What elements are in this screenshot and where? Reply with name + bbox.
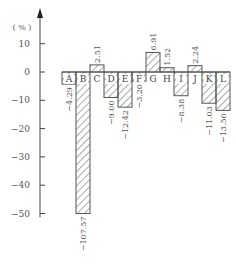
value-label: −11.03 — [205, 106, 214, 136]
category-label: K — [206, 74, 213, 84]
bar-chart: ( % )100−10−20−30−40−50 A−4.29B−107.57C2… — [0, 0, 236, 265]
value-label: −9.00 — [107, 100, 116, 125]
value-label: −107.57 — [79, 217, 88, 252]
value-label: 2.24 — [191, 46, 200, 64]
axis-arrow-icon — [37, 8, 43, 18]
y-tick-label: 10 — [19, 39, 31, 49]
bar-rect — [160, 68, 174, 72]
bar-b: B−107.57 — [76, 72, 90, 251]
y-axis: ( % )100−10−20−30−40−50 — [11, 8, 45, 219]
category-label: H — [163, 74, 171, 84]
bar-h: H1.52 — [160, 48, 174, 84]
bar-rect — [188, 66, 202, 72]
value-label: 6.91 — [149, 33, 158, 51]
y-tick-label: 0 — [24, 67, 30, 77]
category-label: C — [94, 74, 101, 84]
value-label: −13.56 — [219, 113, 228, 143]
y-tick-label: −30 — [11, 152, 30, 162]
bar-rect — [76, 72, 90, 214]
bar-rect — [90, 65, 104, 72]
bar-i: I−8.38 — [174, 72, 188, 123]
category-label: J — [192, 74, 197, 84]
y-axis-unit: ( % ) — [13, 23, 32, 32]
value-label: −12.42 — [121, 110, 130, 140]
category-label: A — [65, 74, 73, 84]
value-label: −3.20 — [135, 84, 144, 109]
y-tick-label: −40 — [11, 180, 30, 190]
bar-g: G6.91 — [146, 33, 160, 84]
category-label: I — [179, 74, 183, 84]
y-tick-label: −20 — [11, 124, 30, 134]
bar-e: E−12.42 — [118, 72, 132, 140]
y-tick-label: −50 — [11, 209, 30, 219]
category-label: G — [149, 74, 156, 84]
value-label: −4.29 — [65, 87, 74, 112]
bar-c: C2.51 — [90, 45, 104, 84]
bar-l: L−13.56 — [216, 72, 230, 143]
bar-j: J2.24 — [188, 46, 202, 84]
value-label: 1.52 — [163, 48, 172, 66]
category-label: E — [122, 74, 129, 84]
bar-k: K−11.03 — [202, 72, 216, 136]
bars-group: A−4.29B−107.57C2.51D−9.00E−12.42F−3.20G6… — [62, 33, 230, 252]
bar-rect — [146, 52, 160, 72]
bar-d: D−9.00 — [104, 72, 118, 125]
category-label: B — [80, 74, 87, 84]
value-label: 2.51 — [93, 45, 102, 63]
y-tick-label: −10 — [11, 95, 30, 105]
value-label: −8.38 — [177, 99, 186, 124]
bar-a: A−4.29 — [62, 72, 76, 112]
category-label: F — [136, 74, 142, 84]
category-label: L — [220, 74, 226, 84]
bar-f: F−3.20 — [132, 72, 146, 109]
category-label: D — [107, 74, 114, 84]
